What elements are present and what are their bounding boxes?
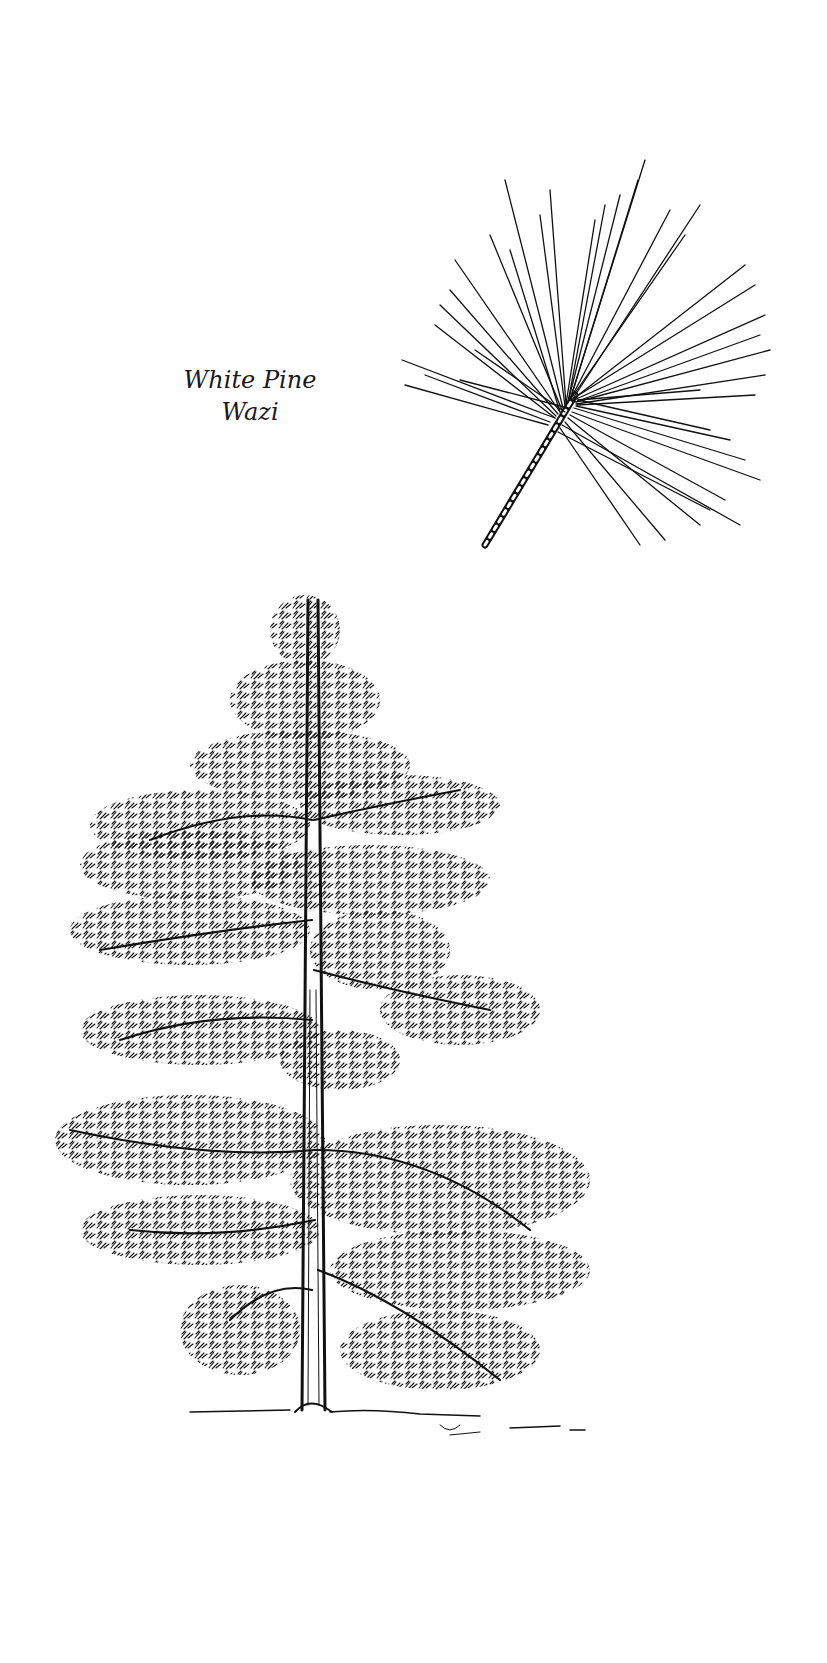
- pine-needle-sprig-icon: [400, 150, 780, 550]
- native-name: Wazi: [150, 396, 350, 428]
- illustration-page: White Pine Wazi: [0, 0, 827, 1663]
- common-name: White Pine: [150, 364, 350, 396]
- white-pine-tree-icon: [40, 590, 640, 1560]
- species-caption: White Pine Wazi: [150, 364, 350, 428]
